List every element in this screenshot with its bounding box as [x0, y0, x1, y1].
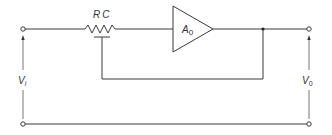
resistor-zigzag	[85, 25, 115, 33]
output-voltage-label: V0	[302, 75, 313, 87]
input-terminal-bottom	[21, 122, 25, 126]
vi-arrowhead-icon	[21, 35, 24, 40]
resistor-label: RC	[93, 9, 111, 20]
circuit-diagram: RC A0 Vi V0	[0, 0, 332, 135]
input-voltage-label: Vi	[18, 75, 27, 87]
amplifier-label: A0	[181, 24, 194, 37]
input-terminal-top	[21, 27, 25, 31]
output-terminal-bottom	[307, 122, 311, 126]
vo-arrowhead-icon	[307, 35, 310, 40]
output-terminal-top	[307, 27, 311, 31]
